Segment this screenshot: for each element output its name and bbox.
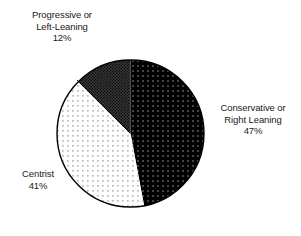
slice-label-progressive-line2: Left-Leaning	[0, 21, 124, 33]
slice-label-conservative-line1: Conservative or	[205, 102, 301, 114]
slice-label-conservative-line2: Right Leaning	[205, 114, 301, 126]
pie-slice-conservative	[131, 60, 206, 206]
slice-label-progressive-percent: 12%	[0, 32, 124, 44]
slice-label-conservative: Conservative or Right Leaning 47%	[205, 102, 301, 137]
pie-svg	[56, 59, 205, 208]
slice-label-progressive: Progressive or Left-Leaning 12%	[0, 9, 124, 44]
pie-chart-figure: Progressive or Left-Leaning 12% Conserva…	[0, 0, 301, 236]
pie-graphic	[56, 59, 205, 208]
slice-label-conservative-percent: 47%	[205, 125, 301, 137]
slice-label-progressive-line1: Progressive or	[0, 9, 124, 21]
